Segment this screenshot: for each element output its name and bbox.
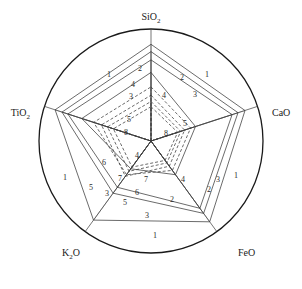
curve-label-6-20: 6: [135, 188, 139, 197]
curve-label-5-21: 5: [123, 198, 127, 207]
curve-label-8-9: 8: [124, 128, 128, 137]
curve-label-5-8: 5: [127, 115, 131, 124]
curve-label-2-4: 2: [180, 73, 184, 82]
curve-label-5-15: 5: [89, 183, 93, 192]
curve-label-1-0: 1: [107, 70, 111, 79]
curve-label-4-2: 4: [131, 80, 135, 89]
curve-label-3-3: 3: [129, 92, 133, 101]
radar-chart-svg: 1243213458584415637765223131 SiO2CaOFeOK…: [0, 0, 302, 289]
curve-label-1-25: 1: [234, 171, 238, 180]
curve-label-8-11: 8: [164, 129, 168, 138]
curve-label-4-12: 4: [135, 151, 139, 160]
curve-label-2-22: 2: [170, 195, 174, 204]
curve-label-2-1: 2: [138, 64, 142, 73]
curve-label-3-17: 3: [105, 189, 109, 198]
curve-label-3-6: 3: [193, 90, 197, 99]
axis-label-FeO: FeO: [238, 247, 255, 258]
curve-label-3-24: 3: [216, 175, 220, 184]
curve-label-6-16: 6: [102, 158, 106, 167]
axis-label-CaO: CaO: [272, 107, 290, 118]
curve-label-1-5: 1: [205, 70, 209, 79]
curve-label-5-10: 5: [183, 119, 187, 128]
curve-label-1-14: 1: [63, 173, 67, 182]
curve-label-7-19: 7: [144, 175, 148, 184]
curve-label-3-26: 3: [145, 211, 149, 220]
curve-label-7-18: 7: [118, 174, 122, 183]
radar-chart: 1243213458584415637765223131 SiO2CaOFeOK…: [0, 0, 302, 289]
curve-label-1-27: 1: [153, 231, 157, 240]
curve-label-2-23: 2: [207, 185, 211, 194]
curve-label-4-13: 4: [181, 175, 185, 184]
curve-label-4-7: 4: [162, 91, 166, 100]
